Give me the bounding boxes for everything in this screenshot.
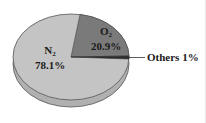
o2-subscript: 2 [109,31,113,39]
o2-label: O2 20.9% [86,26,126,52]
n2-subscript: 2 [52,50,56,58]
n2-label: N2 78.1% [30,45,70,71]
n2-value: 78.1% [30,60,70,71]
others-label: Others 1% [147,52,199,63]
o2-value: 20.9% [86,41,126,52]
right-border [205,0,206,123]
o2-name: O [100,25,109,37]
